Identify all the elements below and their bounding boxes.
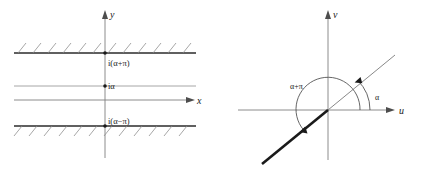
angle-arc-alpha-arrowhead xyxy=(355,77,363,83)
v-axis-arrowhead xyxy=(325,10,331,19)
y-axis-arrowhead xyxy=(102,10,108,19)
angle-label-alpha-plus-pi: α+π xyxy=(290,82,303,91)
center-line-label: iα xyxy=(108,81,115,91)
v-axis xyxy=(325,10,331,160)
upper-boundary-label: i(α+π) xyxy=(108,58,130,68)
point-marker-center xyxy=(103,84,107,88)
lower-boundary-label: i(α−π) xyxy=(108,116,130,126)
lower-hatching xyxy=(14,126,187,136)
u-axis xyxy=(238,107,395,113)
point-marker-upper xyxy=(103,51,107,55)
complex-plane-mapping-figure: y x i(α+π) iα i(α−π) v u α α+π xyxy=(0,0,421,171)
center-line xyxy=(14,84,196,88)
left-plane-strip: y x i(α+π) iα i(α−π) xyxy=(0,0,210,171)
thick-ray-alpha-plus-pi xyxy=(262,110,328,164)
x-axis-arrowhead xyxy=(186,97,195,103)
y-axis-label: y xyxy=(109,9,115,20)
x-axis xyxy=(14,97,195,103)
u-axis-label: u xyxy=(399,105,404,116)
x-axis-label: x xyxy=(196,95,202,106)
point-marker-lower xyxy=(103,124,107,128)
angle-label-alpha: α xyxy=(375,93,380,102)
right-plane-sector: v u α α+π xyxy=(210,0,421,171)
u-axis-arrowhead xyxy=(386,107,395,113)
v-axis-label: v xyxy=(333,9,338,20)
